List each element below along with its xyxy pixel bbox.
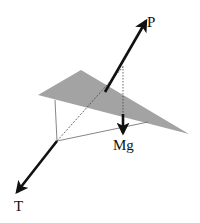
force-arrow-p [105,21,146,92]
bridle-line-front [55,100,57,141]
label-t: T [14,199,23,214]
force-diagram: P Mg T [0,0,200,223]
force-arrow-t [17,141,57,192]
label-p: P [147,15,155,30]
label-mg: Mg [113,138,134,153]
diagram-graphics [0,0,200,223]
bridle-line-rear [57,122,148,141]
